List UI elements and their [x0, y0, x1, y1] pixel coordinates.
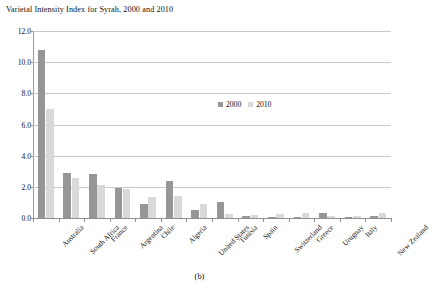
figure-caption: (b) [0, 272, 399, 281]
y-tick-mark [30, 125, 33, 126]
legend-label-2000: 2000 [226, 100, 241, 109]
legend-label-2010: 2010 [256, 100, 271, 109]
y-tick-mark [30, 156, 33, 157]
x-category-label: Algeria [186, 223, 208, 245]
y-tick-mark [30, 31, 33, 32]
y-tick-mark [30, 218, 33, 219]
legend-item-2010: 2010 [248, 100, 271, 109]
y-tick-mark [30, 187, 33, 188]
legend: 2000 2010 [218, 100, 271, 109]
x-category-label: Uruguay [341, 223, 366, 248]
legend-swatch-2010 [248, 102, 253, 107]
legend-swatch-2000 [218, 102, 223, 107]
x-category-label: Australia [60, 223, 86, 249]
x-category-label: New Zealand [396, 223, 430, 257]
x-category-label: Spain [261, 223, 279, 241]
y-tick-mark [30, 62, 33, 63]
x-category-label: Italy [363, 223, 379, 239]
y-tick-mark [30, 93, 33, 94]
legend-item-2000: 2000 [218, 100, 241, 109]
